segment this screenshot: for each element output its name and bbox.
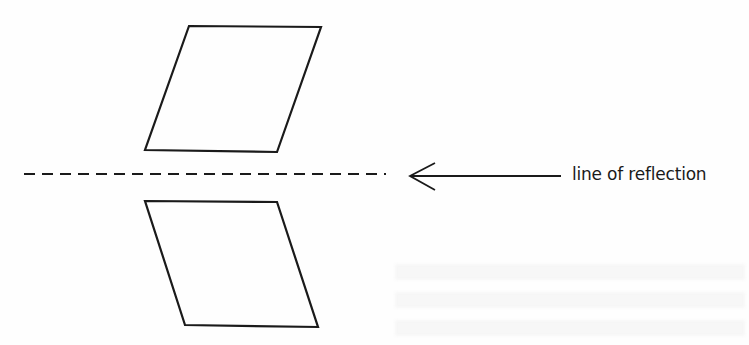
- reflected-parallelogram: [145, 201, 318, 327]
- original-parallelogram: [145, 26, 321, 152]
- diagram-canvas: line of reflection: [0, 0, 749, 345]
- line-of-reflection-label: line of reflection: [572, 164, 706, 184]
- arrow-left-icon: [410, 163, 561, 190]
